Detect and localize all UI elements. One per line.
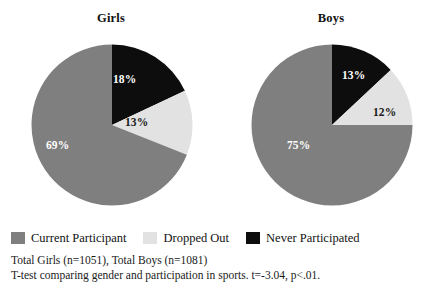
- legend-item-current-participant: Current Participant: [11, 231, 126, 246]
- legend-label-dropped-out: Dropped Out: [163, 231, 229, 246]
- boys-pie-chart: 13% 12% 75%: [251, 44, 413, 206]
- legend-item-never-participated: Never Participated: [246, 231, 359, 246]
- footnote-ttest: T-test comparing gender and participatio…: [11, 268, 431, 283]
- legend-swatch-current-participant-icon: [11, 232, 25, 244]
- girls-pie-chart: 18% 13% 69%: [31, 44, 193, 206]
- chart-legend: Current Participant Dropped Out Never Pa…: [11, 229, 376, 247]
- footnote-totals: Total Girls (n=1051), Total Boys (n=1081…: [11, 253, 431, 268]
- boys-chart-title: Boys: [231, 11, 431, 26]
- pie-chart-figure: Girls 18% 13% 69% Boys 13% 12% 75%: [0, 0, 443, 226]
- boys-pie-panel: Boys 13% 12% 75%: [231, 0, 431, 226]
- girls-pie-panel: Girls 18% 13% 69%: [11, 0, 211, 226]
- chart-footnotes: Total Girls (n=1051), Total Boys (n=1081…: [11, 253, 431, 283]
- legend-item-dropped-out: Dropped Out: [143, 231, 229, 246]
- legend-swatch-dropped-out-icon: [143, 232, 157, 244]
- legend-swatch-never-participated-icon: [246, 232, 260, 244]
- girls-chart-title: Girls: [11, 11, 211, 26]
- legend-label-never-participated: Never Participated: [266, 231, 359, 246]
- legend-label-current-participant: Current Participant: [31, 231, 126, 246]
- boys-pie-svg: [251, 44, 413, 206]
- girls-pie-svg: [31, 44, 193, 206]
